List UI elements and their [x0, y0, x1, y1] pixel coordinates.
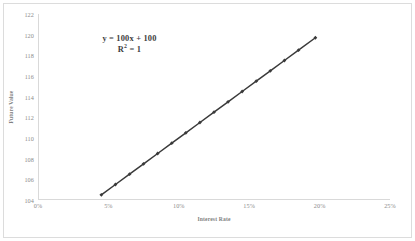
y-axis-tick-label: 106 — [24, 176, 34, 183]
trendline-r-squared: R2 = 1 — [72, 44, 187, 55]
y-axis-tick-label: 110 — [25, 135, 34, 142]
y-axis-tick-label: 118 — [25, 52, 34, 59]
y-axis-tick-label: 120 — [24, 31, 34, 38]
x-axis-tick-label: 5% — [104, 202, 112, 209]
x-axis-tick-label: 10% — [173, 202, 185, 209]
y-axis-tick-label: 122 — [24, 11, 34, 18]
x-axis-tick-label: 25% — [384, 202, 396, 209]
y-axis-tick-labels: 104106108110112114116118120122 — [14, 14, 34, 200]
trendline-equation: y = 100x + 100 — [72, 33, 187, 44]
y-axis-tick-label: 108 — [24, 155, 34, 162]
y-axis-tick-label: 112 — [25, 114, 34, 121]
y-axis-tick-label: 114 — [25, 93, 34, 100]
r-squared-value: = 1 — [130, 45, 142, 54]
data-series-line — [99, 36, 317, 197]
y-axis-tick-label: 104 — [24, 197, 34, 204]
x-axis-tick-label: 15% — [243, 202, 255, 209]
x-axis-title: Interest Rate — [38, 216, 390, 222]
x-axis-tick-labels: 0%5%10%15%20%25% — [38, 202, 390, 214]
x-axis-tick-label: 20% — [314, 202, 326, 209]
r-squared-exponent: 2 — [124, 43, 127, 49]
x-axis-tick-label: 0% — [34, 202, 42, 209]
trendline-annotation: y = 100x + 100 R2 = 1 — [72, 33, 187, 55]
chart-screenshot: Future Value 104106108110112114116118120… — [0, 0, 415, 241]
y-axis-tick-label: 116 — [25, 73, 34, 80]
